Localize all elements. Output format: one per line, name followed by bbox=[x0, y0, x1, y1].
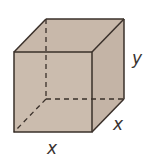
depth-label: x bbox=[112, 114, 124, 134]
height-label: y bbox=[131, 48, 143, 68]
width-label: x bbox=[46, 138, 58, 158]
cube-diagram: y x x bbox=[0, 0, 147, 164]
